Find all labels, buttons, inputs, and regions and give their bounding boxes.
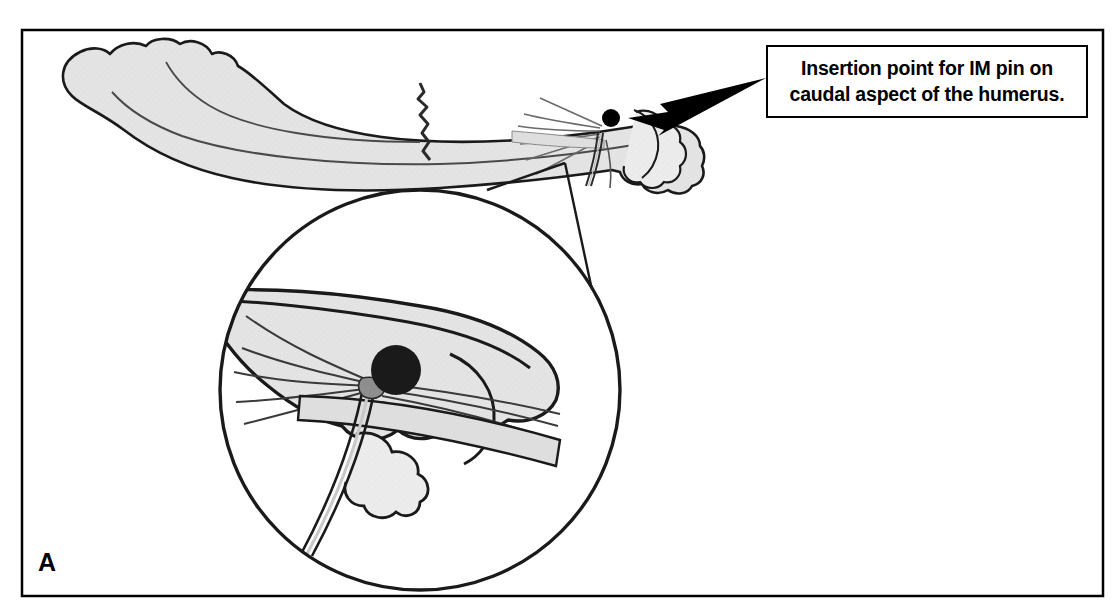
magnified-inset <box>196 190 620 590</box>
humerus-overview <box>63 39 766 194</box>
panel-label: A <box>38 550 56 575</box>
inset-insertion-point-marker <box>371 345 421 395</box>
caption-line-2: caudal aspect of the humerus. <box>790 82 1065 108</box>
insertion-point-marker <box>602 109 620 127</box>
caption-line-1: Insertion point for IM pin on <box>801 56 1053 82</box>
figure-panel: Insertion point for IM pin on caudal asp… <box>0 0 1119 612</box>
caption-box: Insertion point for IM pin on caudal asp… <box>766 45 1088 118</box>
